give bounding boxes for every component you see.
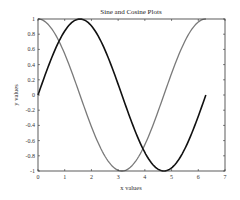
y-axis-label: y values [12,84,19,106]
y-tick-label: -0.6 [26,138,36,144]
y-tick-label: -0.4 [26,122,36,128]
chart-title: Sine and Cosine Plots [100,8,162,16]
x-tick-label: 3 [117,174,120,180]
x-tick-label: 5 [170,174,173,180]
y-tick-label: 0.2 [28,77,36,83]
x-tick-label: 6 [197,174,200,180]
x-axis-label: x values [120,184,142,191]
y-tick-label: -1 [30,168,35,174]
x-tick-label: 0 [37,174,40,180]
y-tick-label: 0.6 [28,46,36,52]
y-tick-label: 0.4 [28,62,36,68]
y-tick-label: -0.2 [26,107,36,113]
y-tick-label: 0 [32,92,35,98]
x-tick-label: 2 [90,174,93,180]
axes-box [38,19,225,171]
x-axis-ticks: 01234567 [37,19,227,180]
chart: Sine and Cosine Plots 01234567 -1-0.8-0.… [0,0,240,200]
plot-lines [38,19,206,171]
x-tick-label: 4 [143,174,146,180]
y-tick-label: -0.8 [26,153,36,159]
sine-line [38,19,206,171]
y-axis-ticks: -1-0.8-0.6-0.4-0.200.20.40.60.81 [26,16,226,174]
y-tick-label: 1 [32,16,35,22]
y-tick-label: 0.8 [28,31,36,37]
x-tick-label: 1 [63,174,66,180]
x-tick-label: 7 [224,174,227,180]
